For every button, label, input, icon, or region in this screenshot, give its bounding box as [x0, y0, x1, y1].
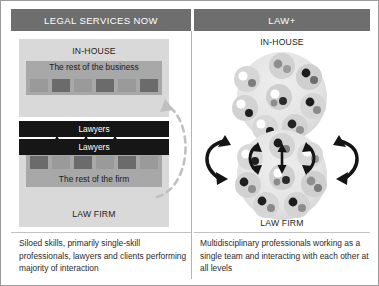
column-header-law-plus: LAW+	[194, 9, 370, 31]
lawfirm-label: LAW FIRM	[19, 209, 169, 219]
right-caption-rule	[194, 232, 370, 233]
skill-square	[140, 79, 158, 92]
lawfirm-container: The rest of the firm LAW FIRM	[19, 145, 169, 227]
skill-square	[52, 156, 70, 169]
lawfirm-cluster-label: LAW FIRM	[194, 218, 370, 228]
skill-square	[96, 156, 114, 169]
figure-frame: LEGAL SERVICES NOW LAW+ IN-HOUSE The res…	[0, 0, 379, 286]
skill-square	[118, 79, 136, 92]
rest-of-firm-band: The rest of the firm	[26, 153, 162, 187]
skill-square	[52, 79, 70, 92]
skill-square	[30, 156, 48, 169]
skill-square	[96, 79, 114, 92]
left-caption: Siloed skills, primarily single-skill pr…	[19, 237, 189, 275]
business-skill-squares	[30, 79, 158, 92]
rest-of-business-band: The rest of the business	[26, 61, 162, 95]
cluster-lawfirm	[235, 130, 327, 220]
rest-of-firm-label: The rest of the firm	[26, 174, 162, 184]
integrated-clusters-graphic	[194, 35, 370, 231]
lawyers-bar-lawfirm: Lawyers	[19, 139, 169, 155]
cluster-inhouse	[232, 52, 327, 142]
left-caption-rule	[11, 232, 191, 233]
firm-skill-squares	[30, 156, 158, 169]
inhouse-label: IN-HOUSE	[19, 46, 169, 56]
skill-square	[74, 156, 92, 169]
right-panel-integrated-model: IN-HOUSE	[194, 35, 370, 231]
skill-square	[30, 79, 48, 92]
inhouse-container: IN-HOUSE The rest of the business	[19, 39, 169, 117]
column-header-legal-services-now: LEGAL SERVICES NOW	[11, 9, 191, 31]
skill-square	[74, 79, 92, 92]
right-caption: Multidisciplinary professionals working …	[200, 237, 372, 275]
skill-square	[118, 156, 136, 169]
lawyers-bar-inhouse: Lawyers	[19, 121, 169, 137]
rest-of-business-label: The rest of the business	[26, 62, 162, 72]
left-panel-siloed-model: IN-HOUSE The rest of the business Lawyer…	[11, 35, 191, 231]
